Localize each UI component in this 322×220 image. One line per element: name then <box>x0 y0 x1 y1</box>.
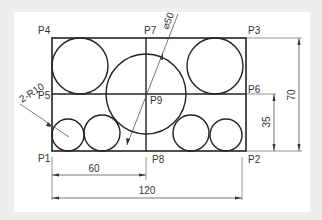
point-label-p5: P5 <box>38 90 51 101</box>
diameter-label: ⌀50 <box>160 10 177 30</box>
point-label-p8: P8 <box>152 154 165 165</box>
point-label-p3: P3 <box>248 25 261 36</box>
technical-drawing: ⌀50 2-R10 60 120 35 70 P4 P7 P3 P5 P9 P6… <box>0 0 322 220</box>
arrow-right-icon <box>235 197 242 200</box>
arrow-left-icon <box>52 174 59 177</box>
arrow-right-icon <box>139 174 146 177</box>
diameter-arrow-icon <box>126 138 130 145</box>
arrow-up-icon <box>273 94 276 101</box>
point-label-p2: P2 <box>248 154 261 165</box>
circle-bottom-right-medium <box>173 115 209 151</box>
dimension-35-label: 35 <box>261 116 272 128</box>
dimension-70-label: 70 <box>286 89 297 101</box>
circle-bottom-left-small <box>52 119 84 151</box>
arrow-up-icon <box>298 38 301 45</box>
dimension-60-label: 60 <box>88 163 100 174</box>
point-label-p7: P7 <box>144 25 157 36</box>
circle-bottom-right-small <box>210 119 242 151</box>
point-label-p9: P9 <box>150 95 163 106</box>
dimension-120-label: 120 <box>139 185 156 196</box>
circle-top-right <box>187 38 243 94</box>
point-label-p1: P1 <box>38 153 51 164</box>
circle-bottom-left-medium <box>84 115 120 151</box>
point-label-p4: P4 <box>38 25 51 36</box>
arrow-down-icon <box>298 144 301 151</box>
arrow-left-icon <box>52 197 59 200</box>
circle-top-left <box>52 38 108 94</box>
arrow-down-icon <box>273 144 276 151</box>
point-label-p6: P6 <box>248 84 261 95</box>
